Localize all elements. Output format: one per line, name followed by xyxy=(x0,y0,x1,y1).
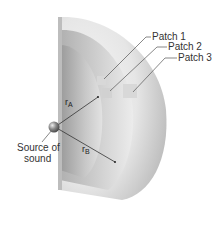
patch-1 xyxy=(97,76,106,85)
source-label-line2: sound xyxy=(24,153,51,164)
sound-source-icon xyxy=(49,122,60,133)
radius-a-end xyxy=(97,96,99,98)
source-leader xyxy=(42,130,52,142)
patch-2 xyxy=(102,88,112,98)
patch-3 xyxy=(123,84,137,98)
radius-b-end xyxy=(114,161,116,163)
shell-edge xyxy=(58,17,62,190)
patch-2-label: Patch 2 xyxy=(168,41,202,52)
source-label-line1: Source of xyxy=(17,142,60,153)
spherical-shells-diagram: Patch 1 Patch 2 Patch 3 rA rB Source of … xyxy=(0,0,221,230)
patch-3-label: Patch 3 xyxy=(178,52,212,63)
